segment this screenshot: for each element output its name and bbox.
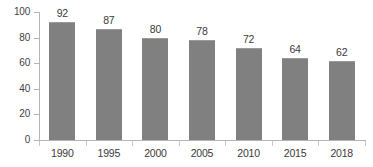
y-tick-label: 80 (0, 33, 30, 43)
bar-value-label: 62 (318, 47, 365, 58)
x-tick-mark (272, 141, 273, 146)
bar-value-label: 87 (86, 15, 133, 26)
bar-group[interactable]: 64 (272, 12, 319, 140)
x-tick-mark (86, 141, 87, 146)
x-axis-label: 2010 (225, 147, 272, 159)
x-axis-line (39, 140, 366, 141)
x-axis-label: 2018 (318, 147, 365, 159)
x-axis-label: 2005 (179, 147, 226, 159)
x-tick-mark (365, 141, 366, 146)
bar-value-label: 64 (272, 44, 319, 55)
bar-group[interactable]: 80 (132, 12, 179, 140)
bar-group[interactable]: 87 (86, 12, 133, 140)
x-axis-label: 1995 (86, 147, 133, 159)
bar-value-label: 72 (225, 34, 272, 45)
bar[interactable] (329, 61, 355, 140)
bar-group[interactable]: 78 (179, 12, 226, 140)
bar[interactable] (236, 48, 262, 140)
x-tick-mark (39, 141, 40, 146)
bar[interactable] (142, 38, 168, 140)
bar[interactable] (189, 40, 215, 140)
x-tick-mark (179, 141, 180, 146)
x-tick-mark (318, 141, 319, 146)
x-tick-mark (225, 141, 226, 146)
y-tick-label: 60 (0, 58, 30, 68)
bar[interactable] (96, 29, 122, 140)
bar-group[interactable]: 72 (225, 12, 272, 140)
x-axis-label: 2015 (272, 147, 319, 159)
bar-group[interactable]: 62 (318, 12, 365, 140)
y-tick-label: 20 (0, 109, 30, 119)
bar-value-label: 92 (39, 8, 86, 19)
x-axis-labels: 1990199520002005201020152018 (39, 147, 365, 165)
y-tick-label: 40 (0, 84, 30, 94)
x-tick-mark (132, 141, 133, 146)
bar-group[interactable]: 92 (39, 12, 86, 140)
y-tick-label: 100 (0, 7, 30, 17)
x-axis-label: 2000 (132, 147, 179, 159)
bar-value-label: 80 (132, 24, 179, 35)
bar[interactable] (49, 22, 75, 140)
bars-layer: 92878078726462 (39, 12, 365, 140)
x-axis-label: 1990 (39, 147, 86, 159)
bar-chart: 020406080100 92878078726462 199019952000… (0, 0, 373, 167)
bar-value-label: 78 (179, 26, 226, 37)
bar[interactable] (282, 58, 308, 140)
y-tick-label: 0 (0, 135, 30, 145)
